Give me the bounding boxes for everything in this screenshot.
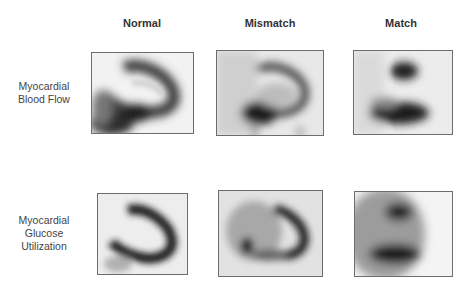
scan-panel-glucose-match — [354, 191, 453, 277]
scan-panel-glucose-normal — [97, 193, 188, 275]
scan-image — [92, 53, 193, 133]
row-label-blood-flow: Myocardial Blood Flow — [0, 80, 88, 106]
scan-panel-glucose-mismatch — [218, 190, 323, 277]
scan-image — [355, 192, 452, 276]
row-label-line: Utilization — [0, 240, 88, 253]
scan-image — [217, 51, 323, 135]
column-heading-mismatch: Mismatch — [210, 17, 330, 29]
scan-panel-blood-flow-match — [353, 50, 453, 135]
scan-image — [98, 194, 187, 274]
row-label-glucose-utilization: Myocardial Glucose Utilization — [0, 214, 88, 253]
column-heading-normal: Normal — [82, 17, 202, 29]
row-label-line: Glucose — [0, 227, 88, 240]
row-label-line: Blood Flow — [0, 93, 88, 106]
scan-image — [354, 51, 452, 134]
column-heading-match: Match — [341, 17, 461, 29]
scan-panel-blood-flow-mismatch — [216, 50, 324, 136]
row-label-line: Myocardial — [0, 80, 88, 93]
scan-image — [219, 191, 322, 276]
scan-panel-blood-flow-normal — [91, 52, 194, 134]
row-label-line: Myocardial — [0, 214, 88, 227]
